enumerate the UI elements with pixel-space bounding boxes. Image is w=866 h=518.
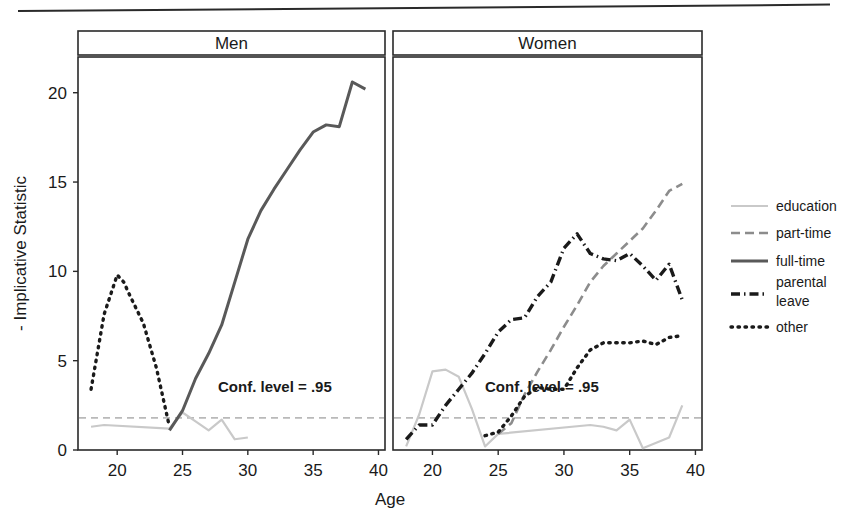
confidence-level-annotation: Conf. level = .95 xyxy=(218,378,332,395)
chart-canvas: Men2025303540Conf. level = .95Women20253… xyxy=(0,0,866,518)
x-tick-label: 30 xyxy=(238,461,257,480)
legend-label: parental xyxy=(776,274,827,290)
panel-women: Women2025303540Conf. level = .95 xyxy=(393,31,705,480)
y-tick-label: 0 xyxy=(58,441,67,460)
panel-strip-label: Women xyxy=(518,34,576,53)
x-tick-label: 40 xyxy=(369,461,388,480)
y-axis-title: - Implicative Statistic xyxy=(11,176,30,331)
legend-item-parental-leave: parentalleave xyxy=(731,274,827,309)
legend-label: leave xyxy=(776,293,810,309)
y-axis: 05101520 xyxy=(48,84,78,460)
legend-label: part-time xyxy=(776,225,831,241)
x-tick-label: 30 xyxy=(554,461,573,480)
x-tick-label: 40 xyxy=(686,461,705,480)
legend-item-other: other xyxy=(731,319,808,335)
legend: educationpart-timefull-timeparentalleave… xyxy=(731,198,837,335)
confidence-level-annotation: Conf. level = .95 xyxy=(485,378,599,395)
y-tick-label: 20 xyxy=(48,84,67,103)
x-tick-label: 20 xyxy=(108,461,127,480)
legend-item-full-time: full-time xyxy=(731,253,825,269)
legend-label: other xyxy=(776,319,808,335)
chart-figure: Men2025303540Conf. level = .95Women20253… xyxy=(0,0,866,518)
x-axis-title: Age xyxy=(375,490,405,509)
legend-label: education xyxy=(776,198,837,214)
legend-item-part-time: part-time xyxy=(731,225,831,241)
y-tick-label: 5 xyxy=(58,352,67,371)
x-tick-label: 25 xyxy=(489,461,508,480)
legend-item-education: education xyxy=(731,198,837,214)
x-tick-label: 35 xyxy=(304,461,323,480)
panel-strip-label: Men xyxy=(215,34,248,53)
y-tick-label: 10 xyxy=(48,262,67,281)
x-tick-label: 25 xyxy=(173,461,192,480)
x-tick-label: 20 xyxy=(423,461,442,480)
y-tick-label: 15 xyxy=(48,173,67,192)
legend-label: full-time xyxy=(776,253,825,269)
panel-men: Men2025303540Conf. level = .95 xyxy=(78,31,388,480)
x-tick-label: 35 xyxy=(620,461,639,480)
